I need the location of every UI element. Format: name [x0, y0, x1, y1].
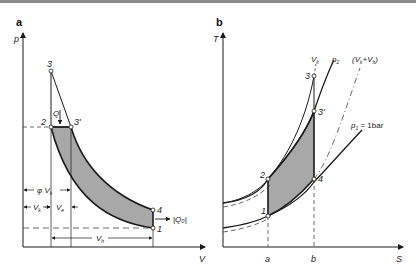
point-3p: [69, 125, 73, 129]
label-p1: p1 = 1bar: [350, 121, 384, 131]
label-3p-ts: 3': [318, 107, 325, 117]
s-axis-label: S: [396, 254, 402, 264]
point-2: [49, 125, 53, 129]
label-3-ts: 3: [305, 71, 310, 81]
label-p2: p2: [331, 55, 339, 65]
label-2: 2: [40, 117, 46, 127]
t-axis-label: T: [213, 34, 220, 44]
p-axis-label: p: [13, 34, 19, 44]
label-vkvh: (Vk+Vh): [352, 55, 378, 65]
label-4: 4: [157, 205, 162, 215]
line-3-3p: [51, 71, 71, 127]
tick-a: a: [265, 254, 270, 264]
v-axis-label: V: [199, 254, 206, 264]
diesel-cycle-diagram: a p V 3 2 3' 4 1 Q: [0, 0, 416, 273]
label-4-ts: 4: [318, 174, 323, 184]
point-4: [151, 208, 155, 212]
work-area: [51, 127, 153, 228]
label-2-ts: 2: [259, 170, 265, 180]
point-1: [151, 226, 155, 230]
panel-b-label: b: [216, 16, 223, 28]
point-3-ts: [312, 74, 316, 78]
label-1-ts: 1: [261, 206, 266, 216]
point-3: [49, 69, 53, 73]
dim-vh-label: Vh: [96, 234, 104, 244]
label-1: 1: [157, 224, 162, 234]
label-3: 3: [47, 59, 52, 69]
panel-b: b T S 3 3' 2: [213, 16, 403, 264]
panel-a-label: a: [16, 16, 23, 28]
panel-a: a p V 3 2 3' 4 1 Q: [13, 16, 206, 264]
dim-ve-label: Ve: [56, 203, 64, 213]
label-3p: 3': [74, 117, 81, 127]
label-vk: Vk: [311, 55, 319, 65]
tick-b: b: [311, 254, 316, 264]
isochore-vkvh-lower: [223, 219, 268, 232]
point-2-ts: [266, 177, 270, 181]
point-4-ts: [312, 177, 316, 181]
heat-out-label: |Q₀|: [173, 215, 187, 224]
heat-in-label: Q: [53, 109, 59, 118]
point-3p-ts: [312, 109, 316, 113]
dim-phivk-label: φ Vk: [37, 186, 53, 196]
point-1-ts: [266, 214, 270, 218]
dim-vk-label: Vk: [33, 203, 41, 213]
